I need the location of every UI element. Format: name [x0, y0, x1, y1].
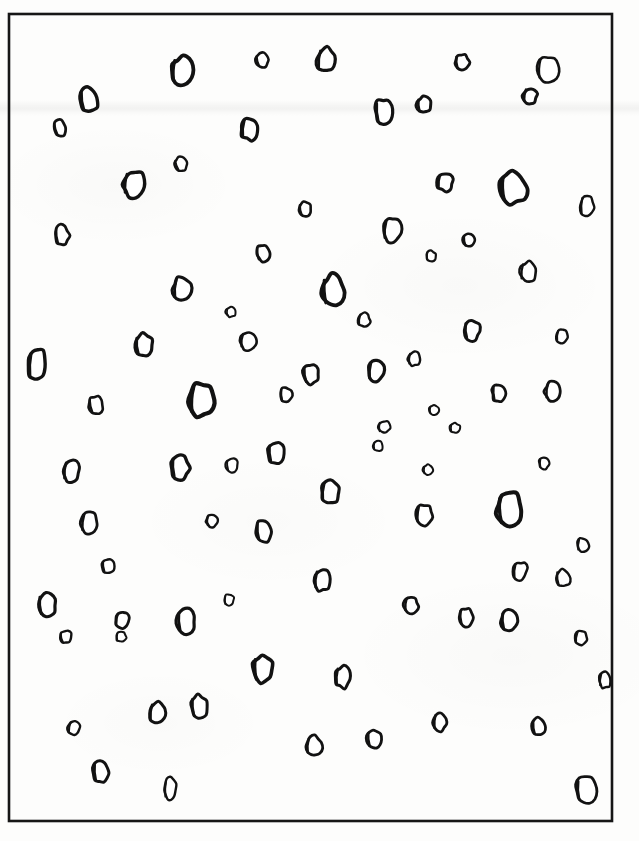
particle-outline	[316, 46, 335, 70]
particle-outline	[225, 458, 237, 472]
particle-outline	[429, 405, 439, 415]
figure-frame-border	[9, 14, 612, 821]
particle-outline	[191, 694, 207, 718]
particle-outline	[599, 671, 610, 688]
particle-heavy-flank	[557, 331, 558, 341]
particle-heavy-flank	[315, 572, 317, 587]
particle-outline	[464, 321, 480, 342]
particle-outline	[539, 458, 550, 470]
particle-outline	[556, 569, 570, 586]
particle-outline	[164, 777, 176, 800]
particle-outline	[433, 713, 447, 732]
particle-heavy-flank	[581, 198, 582, 213]
particle-outline	[556, 329, 568, 343]
particle-outline	[80, 87, 98, 111]
particle-heavy-flank	[418, 100, 419, 111]
particle-heavy-flank	[30, 353, 32, 375]
particle-heavy-flank	[324, 280, 326, 302]
particle-outline	[171, 455, 190, 480]
particle-heavy-flank	[409, 354, 410, 364]
particle-outline	[369, 360, 385, 382]
particle-outline	[116, 612, 130, 628]
particle-outline	[403, 597, 419, 614]
particle-outline	[224, 594, 234, 605]
particle-outline	[206, 515, 218, 528]
particle-heavy-flank	[307, 739, 308, 753]
particle-outline	[437, 174, 454, 192]
particle-outline	[321, 273, 344, 305]
particle-heavy-flank	[434, 715, 435, 728]
particle-outline	[172, 55, 194, 85]
particle-outline	[423, 464, 434, 475]
particle-outline	[375, 100, 393, 125]
particle-heavy-flank	[379, 423, 380, 431]
particle-outline	[408, 351, 421, 366]
particle-heavy-flank	[243, 121, 245, 136]
particle-heavy-flank	[165, 781, 166, 796]
particle-heavy-flank	[578, 781, 579, 799]
particle-heavy-flank	[179, 613, 180, 630]
particle-heavy-flank	[465, 324, 466, 338]
particle-outline	[373, 441, 383, 451]
particle-heavy-flank	[369, 363, 371, 378]
particle-outline	[28, 349, 45, 379]
particle-outline	[54, 120, 66, 137]
particle-outline	[492, 385, 506, 402]
particle-outline	[60, 631, 71, 643]
particle-outline	[500, 609, 517, 630]
particle-outline	[537, 57, 559, 82]
particle-heavy-flank	[417, 508, 418, 522]
particle-outline	[463, 234, 475, 247]
particle-outline	[416, 505, 433, 526]
particle-outline	[427, 250, 436, 261]
particle-heavy-flank	[336, 669, 337, 684]
particle-outline	[496, 492, 521, 526]
particle-heavy-flank	[281, 390, 282, 401]
particle-outline	[39, 593, 56, 617]
particle-heavy-flank	[191, 387, 193, 411]
particle-outline	[255, 52, 268, 67]
particle-outline	[366, 730, 381, 748]
particle-outline	[63, 460, 79, 482]
particle-heavy-flank	[502, 177, 504, 199]
particle-outline	[135, 333, 153, 356]
particle-outline	[544, 381, 560, 401]
particle-outline	[55, 224, 70, 245]
particle-outline	[93, 761, 109, 782]
figure-root	[0, 0, 639, 841]
particle-heavy-flank	[173, 459, 174, 476]
particle-outline	[499, 171, 527, 205]
particle-outline	[122, 172, 144, 198]
particle-heavy-flank	[405, 599, 406, 610]
particle-outline	[188, 383, 215, 417]
particle-outline	[416, 96, 431, 112]
particle-outline	[256, 521, 272, 543]
particle-outline	[322, 480, 340, 503]
particle-outline	[257, 245, 270, 262]
particle-outline	[532, 717, 546, 735]
particle-outline	[378, 421, 391, 432]
particle-outline	[89, 396, 103, 414]
particle-outline	[102, 559, 115, 573]
particle-outline	[459, 608, 473, 627]
particle-outline	[513, 563, 528, 581]
particle-outline	[306, 735, 323, 755]
particle-outline	[455, 54, 470, 70]
particle-outline	[67, 721, 80, 735]
particle-outline	[225, 307, 235, 317]
particle-heavy-flank	[173, 61, 175, 81]
particle-outline	[314, 570, 330, 592]
particle-outline	[176, 608, 194, 634]
particle-outline	[281, 388, 293, 402]
particle-layer	[28, 46, 610, 803]
particle-heavy-flank	[269, 446, 271, 461]
particle-heavy-flank	[499, 499, 501, 523]
particle-outline	[580, 196, 594, 216]
particle-outline	[252, 655, 272, 683]
particle-outline	[358, 312, 371, 326]
particle-heavy-flank	[460, 611, 461, 624]
particle-outline	[80, 512, 97, 534]
particle-outline	[267, 443, 284, 464]
particle-heavy-flank	[502, 614, 504, 629]
particle-outline	[150, 701, 166, 723]
